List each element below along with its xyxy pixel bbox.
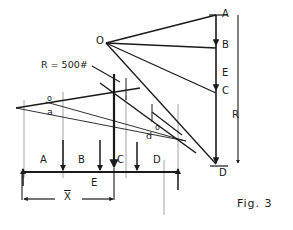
centroid-dimension-label: X <box>64 192 71 202</box>
string-label-o-left: o <box>47 95 52 103</box>
string-label-a: a <box>47 107 53 117</box>
beam-load-label-a: A <box>40 155 47 165</box>
beam-load-label-b: B <box>78 155 85 165</box>
string-polygon <box>16 83 196 153</box>
beam <box>22 168 178 200</box>
load-line-point-d: D <box>219 168 227 178</box>
load-line-segment-e: E <box>222 68 228 78</box>
string-label-d: d <box>146 131 152 141</box>
figure-3-graphical-statics: O R = 500# A B C D E R o a d o A B C D E… <box>0 0 293 230</box>
resultant-span-label-r: R <box>232 110 239 120</box>
resultant-leader <box>92 66 120 82</box>
pole-label-o: O <box>96 36 104 46</box>
load-line-point-b: B <box>222 40 229 50</box>
diagram-canvas <box>0 0 293 230</box>
pole-rays <box>106 15 216 164</box>
beam-load-label-d: D <box>153 155 161 165</box>
figure-caption: Fig. 3 <box>237 198 273 209</box>
load-line-point-a: A <box>222 9 229 19</box>
string-label-o-right: o <box>155 124 160 132</box>
beam-total-label-e: E <box>91 178 97 188</box>
beam-load-label-c: C <box>117 155 124 165</box>
polygon-tick-lines <box>126 78 152 122</box>
resultant-value-label: R = 500# <box>41 60 88 70</box>
load-line-point-c: C <box>222 86 229 96</box>
